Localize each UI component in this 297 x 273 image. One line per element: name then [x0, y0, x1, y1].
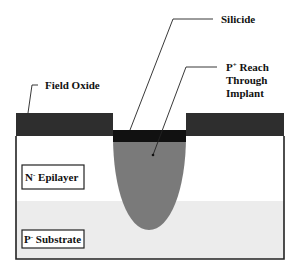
implant-label-line1: P+ Reach [226, 61, 269, 73]
field-oxide-left [16, 113, 113, 136]
field-oxide-leader [28, 85, 38, 113]
cross-section-diagram: Silicide P+ Reach Through Implant Field … [0, 0, 297, 273]
implant-label-line2: Through [226, 74, 267, 86]
silicide-label: Silicide [221, 13, 255, 25]
field-oxide-label: Field Oxide [45, 79, 100, 91]
substrate-label: P- Substrate [24, 233, 81, 245]
field-oxide-right [186, 113, 284, 136]
implant-label-line3: Implant [226, 87, 264, 99]
implant-leader-tip [152, 154, 155, 157]
silicide-layer [113, 130, 186, 142]
